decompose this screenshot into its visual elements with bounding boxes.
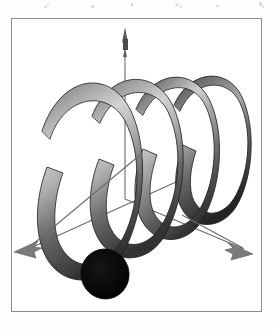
x-axis-arrowhead (14, 241, 42, 258)
scan-speck (91, 5, 94, 8)
scan-speck (262, 6, 264, 8)
figure-page: Three-dimensional helix (coiled tube) wi… (0, 0, 273, 329)
scan-speck (47, 4, 49, 6)
plot-frame (11, 18, 262, 312)
z-axis-arrowhead (122, 27, 128, 57)
shaded-tube-helix (37, 76, 251, 280)
figure-kind: 3d-surface-plot (0, 0, 1, 1)
scan-speck (180, 6, 182, 8)
helix-coil-4-back (174, 76, 251, 224)
scan-speck (44, 6, 47, 8)
scan-speck (216, 5, 219, 7)
helix-plot (12, 19, 261, 311)
scan-speck (175, 4, 179, 6)
scan-speck (131, 3, 133, 6)
figure-title: Three-dimensional helix (coiled tube) wi… (0, 0, 1, 1)
